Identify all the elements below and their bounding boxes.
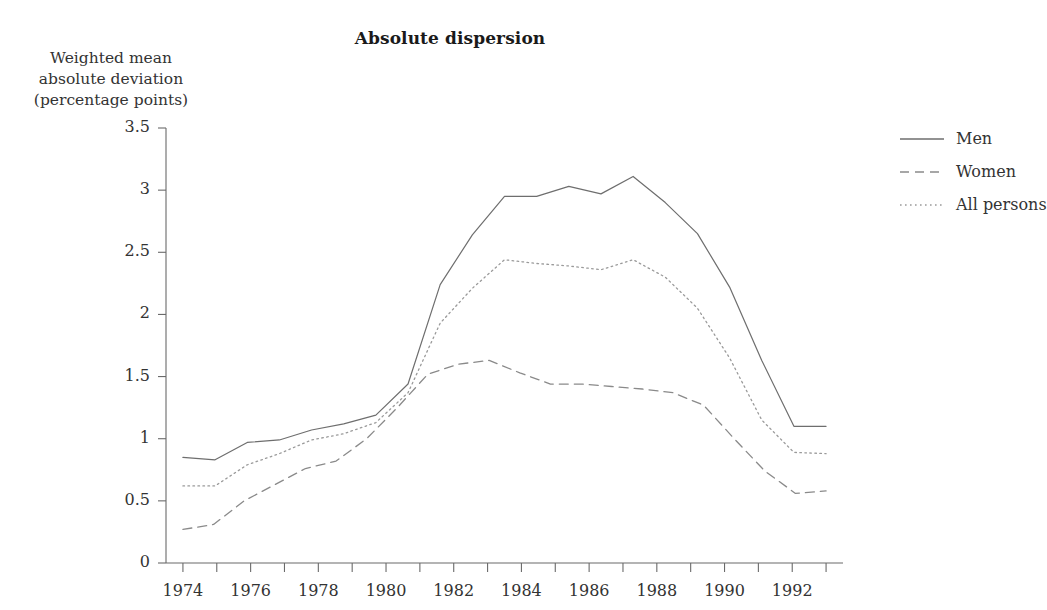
x-axis-tick-label: 1990 (695, 581, 755, 600)
y-axis-tick-label: 2 (104, 303, 150, 322)
legend-item-men[interactable]: Men (900, 122, 1041, 155)
x-axis-tick-label: 1980 (356, 581, 416, 600)
y-axis-tick-label: 3.5 (104, 117, 150, 136)
y-axis-ticks (158, 128, 166, 563)
y-axis-tick-label: 0 (104, 552, 150, 571)
series-line-all-persons (183, 260, 826, 486)
y-axis-tick-label: 2.5 (104, 241, 150, 260)
legend-item-all-persons[interactable]: All persons (900, 188, 1041, 221)
series-line-women (183, 360, 826, 529)
chart-legend: MenWomenAll persons (900, 122, 1041, 221)
y-axis-tick-label: 1 (104, 428, 150, 447)
axes (166, 128, 843, 563)
legend-line-swatch-solid-icon (900, 133, 944, 145)
legend-item-women[interactable]: Women (900, 155, 1041, 188)
x-axis-tick-label: 1978 (288, 581, 348, 600)
y-axis-tick-label: 3 (104, 179, 150, 198)
legend-item-label: Women (956, 162, 1016, 181)
legend-line-swatch-dotted-icon (900, 199, 944, 211)
x-axis-tick-label: 1992 (762, 581, 822, 600)
x-axis-tick-label: 1974 (153, 581, 213, 600)
legend-item-label: Men (956, 129, 992, 148)
y-axis-tick-label: 1.5 (104, 366, 150, 385)
x-axis-tick-label: 1988 (627, 581, 687, 600)
data-series-group (183, 176, 826, 529)
x-axis-tick-label: 1982 (424, 581, 484, 600)
series-line-men (183, 176, 826, 459)
x-axis-ticks (183, 563, 826, 572)
x-axis-tick-label: 1976 (221, 581, 281, 600)
legend-line-swatch-dashed-icon (900, 166, 944, 178)
x-axis-tick-label: 1984 (491, 581, 551, 600)
legend-item-label: All persons (956, 195, 1047, 214)
x-axis-tick-label: 1986 (559, 581, 619, 600)
y-axis-tick-label: 0.5 (104, 490, 150, 509)
